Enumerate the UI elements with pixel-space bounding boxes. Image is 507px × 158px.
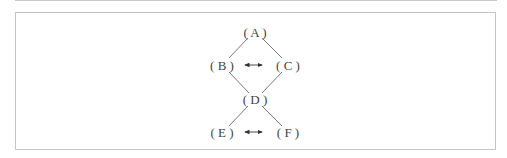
node-d: ( D ) <box>243 92 268 107</box>
edges <box>229 38 282 126</box>
edge-d-e <box>229 106 248 126</box>
node-b: ( B ) <box>210 58 234 73</box>
node-e: ( E ) <box>210 125 233 140</box>
edge-a-c <box>262 38 282 58</box>
node-a: ( A ) <box>243 25 266 40</box>
edge-a-b <box>229 38 248 58</box>
edge-b-d <box>229 72 249 93</box>
edge-d-f <box>262 106 282 126</box>
lattice-diagram: ( A ) ( B ) ( C ) ( D ) ( E ) ( F ) <box>0 0 507 158</box>
edge-c-d <box>262 72 282 93</box>
node-c: ( C ) <box>276 58 300 73</box>
node-f: ( F ) <box>277 125 299 140</box>
